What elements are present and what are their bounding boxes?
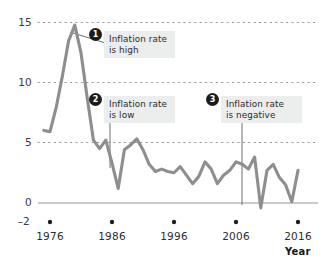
ytick-label-0: 0 — [6, 197, 32, 208]
annotation-badge-3: 3 — [206, 93, 219, 106]
inflation-rate-chart: 15 10 5 0 –2 1976 1986 1996 2006 2016 Ye… — [0, 0, 323, 266]
xtick-dot-1986 — [110, 220, 114, 224]
xtick-label-2006: 2006 — [213, 230, 259, 242]
xtick-dot-1996 — [172, 220, 176, 224]
annotation-badge-1: 1 — [89, 28, 102, 41]
ytick-label-10: 10 — [6, 77, 32, 88]
ytick-label-15: 15 — [6, 17, 32, 28]
annotation-badge-2: 2 — [89, 93, 102, 106]
ytick-label-minus2: –2 — [4, 216, 30, 227]
xtick-label-1986: 1986 — [89, 230, 135, 242]
gridlines — [38, 23, 318, 143]
xtick-label-1996: 1996 — [151, 230, 197, 242]
annotation-label-1: Inflation rate is high — [104, 31, 175, 58]
annotation-label-2: Inflation rate is low — [104, 96, 175, 123]
ytick-label-5: 5 — [6, 137, 32, 148]
xtick-dot-2006 — [234, 220, 238, 224]
xaxis-tick-dots — [48, 220, 300, 224]
xtick-label-1976: 1976 — [27, 230, 73, 242]
xaxis-title: Year — [285, 246, 311, 257]
xtick-dot-2016 — [296, 220, 300, 224]
annotation-label-3: Inflation rate is negative — [221, 96, 302, 123]
xtick-label-2016: 2016 — [275, 230, 321, 242]
xtick-dot-1976 — [48, 220, 52, 224]
